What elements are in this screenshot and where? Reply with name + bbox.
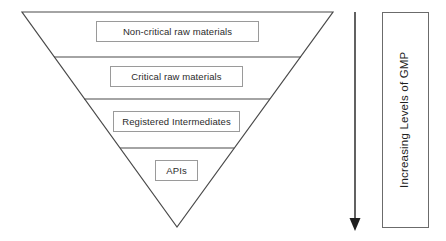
- tier-label-registered-intermediates: Registered Intermediates: [113, 111, 240, 132]
- diagram-canvas: Non-critical raw materials Critical raw …: [0, 0, 446, 241]
- tier-label-non-critical-raw-materials: Non-critical raw materials: [96, 21, 259, 42]
- tier-label-text: APIs: [166, 166, 186, 176]
- increasing-gmp-arrow-head: [350, 218, 361, 231]
- tier-label-apis: APIs: [155, 160, 198, 181]
- tier-label-critical-raw-materials: Critical raw materials: [110, 66, 243, 87]
- tier-label-text: Critical raw materials: [131, 72, 221, 82]
- increasing-gmp-caption-box: Increasing Levels of GMP: [382, 12, 429, 228]
- tier-label-text: Non-critical raw materials: [123, 27, 232, 37]
- increasing-gmp-caption-text: Increasing Levels of GMP: [400, 52, 412, 188]
- tier-label-text: Registered Intermediates: [122, 117, 231, 127]
